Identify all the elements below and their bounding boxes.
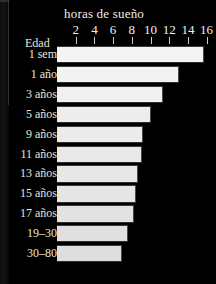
x-tick-label-6: 6: [110, 22, 117, 37]
bar-row: 15 años: [0, 184, 216, 204]
x-tick-mark-10: [151, 37, 152, 44]
chart-title: horas de sueño: [64, 6, 144, 22]
bar: [57, 46, 204, 63]
bar-row: 13 años: [0, 164, 216, 184]
bar-row-label: 1 sem: [29, 46, 57, 63]
x-tick-label-10: 10: [144, 22, 157, 37]
x-tick-mark-16: [207, 37, 208, 44]
bar: [57, 245, 122, 262]
bar-row-label: 19–30: [27, 225, 57, 242]
x-tick-mark-14: [188, 37, 189, 44]
bar-row: 19–30: [0, 224, 216, 244]
bar-row: 9 años: [0, 125, 216, 145]
bar-row-label: 5 años: [26, 106, 57, 123]
bar-row-label: 15 años: [20, 185, 57, 202]
bar-row-label: 1 año: [31, 66, 57, 83]
bar: [57, 185, 136, 202]
x-tick-mark-4: [94, 37, 95, 44]
x-tick-label-14: 14: [181, 22, 194, 37]
bar: [57, 225, 128, 242]
bar: [57, 205, 134, 222]
page-top-edge-line: [0, 0, 9, 2]
bar-row: 11 años: [0, 145, 216, 165]
bar: [57, 66, 179, 83]
bar: [57, 126, 143, 143]
x-tick-label-8: 8: [129, 22, 136, 37]
plot-area: 1 sem1 año3 años5 años9 años11 años13 añ…: [0, 45, 216, 284]
bar-row: 5 años: [0, 105, 216, 125]
x-tick-label-2: 2: [72, 22, 79, 37]
x-tick-mark-6: [113, 37, 114, 44]
x-tick-mark-8: [132, 37, 133, 44]
bar-row: 3 años: [0, 85, 216, 105]
x-axis-tick-labels: 246810121416: [0, 22, 216, 37]
bar: [57, 86, 163, 103]
bar: [57, 165, 138, 182]
bar-row-label: 3 años: [26, 86, 57, 103]
bar-row: 1 año: [0, 65, 216, 85]
bar-row-label: 9 años: [26, 126, 57, 143]
bar-row-label: 17 años: [20, 205, 57, 222]
x-tick-mark-12: [169, 37, 170, 44]
x-tick-label-4: 4: [91, 22, 98, 37]
bar-row-label: 30–80: [27, 245, 57, 262]
bar-row-label: 13 años: [20, 165, 57, 182]
x-tick-mark-2: [76, 37, 77, 44]
bar-row: 17 años: [0, 204, 216, 224]
x-tick-label-16: 16: [200, 22, 213, 37]
bar: [57, 146, 142, 163]
sleep-hours-chart-figure: horas de sueño 246810121416 Edad 1 sem1 …: [0, 0, 216, 284]
bar-row: 1 sem: [0, 45, 216, 65]
bar-row: 30–80: [0, 244, 216, 264]
x-tick-label-12: 12: [163, 22, 176, 37]
bar-row-label: 11 años: [20, 146, 57, 163]
bar: [57, 106, 151, 123]
